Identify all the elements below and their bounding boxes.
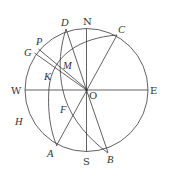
label-o: O xyxy=(89,90,97,101)
label-b: B xyxy=(107,154,114,165)
center-point-o xyxy=(85,89,87,91)
arc-d-m-f-b xyxy=(60,29,108,153)
label-f: F xyxy=(59,104,67,115)
label-g: G xyxy=(24,47,32,58)
label-c: C xyxy=(118,24,126,35)
label-s: S xyxy=(83,156,90,167)
label-k: K xyxy=(43,71,52,82)
label-a: A xyxy=(46,148,54,159)
label-n: N xyxy=(83,16,92,27)
geometry-diagram: N S W E D C P G M K O F H A B xyxy=(0,0,175,177)
label-m: M xyxy=(62,60,73,71)
label-w: W xyxy=(11,85,22,96)
label-e: E xyxy=(150,85,157,96)
label-d: D xyxy=(60,17,69,28)
label-p: P xyxy=(35,36,43,47)
label-h: H xyxy=(14,116,24,127)
